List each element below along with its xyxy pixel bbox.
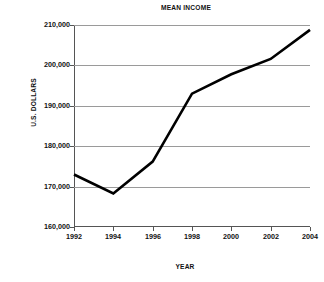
- y-axis-line: [74, 25, 75, 227]
- x-tick-label: 1994: [95, 232, 131, 241]
- x-tick-mark: [153, 227, 154, 231]
- gridline: [74, 146, 310, 147]
- y-tick-label: 160,000: [29, 222, 70, 231]
- gridline: [74, 65, 310, 66]
- x-tick-label: 2002: [253, 232, 289, 241]
- y-axis-title: U.S. DOLLARS: [29, 72, 38, 134]
- gridline: [74, 106, 310, 107]
- x-tick-mark: [271, 227, 272, 231]
- y-tick-mark: [70, 187, 74, 188]
- x-tick-mark: [231, 227, 232, 231]
- y-tick-mark: [70, 65, 74, 66]
- x-tick-label: 1996: [135, 232, 171, 241]
- mean-income-line-chart: MEAN INCOME 160,000170,000180,000190,000…: [0, 0, 324, 282]
- gridline: [74, 187, 310, 188]
- y-tick-mark: [70, 146, 74, 147]
- y-tick-label: 180,000: [29, 141, 70, 150]
- chart-title: MEAN INCOME: [153, 3, 220, 12]
- x-tick-mark: [192, 227, 193, 231]
- y-tick-mark: [70, 106, 74, 107]
- x-tick-mark: [113, 227, 114, 231]
- y-tick-label: 210,000: [29, 20, 70, 29]
- x-tick-label: 2000: [213, 232, 249, 241]
- y-tick-label: 170,000: [29, 182, 70, 191]
- x-tick-mark: [74, 227, 75, 231]
- gridline: [74, 25, 310, 26]
- y-tick-label: 200,000: [29, 60, 70, 69]
- x-tick-mark: [310, 227, 311, 231]
- x-tick-label: 1998: [174, 232, 210, 241]
- plot-area: [74, 25, 310, 227]
- x-tick-label: 1992: [56, 232, 92, 241]
- y-tick-mark: [70, 25, 74, 26]
- x-axis-title: YEAR: [156, 262, 214, 271]
- x-tick-label: 2004: [292, 232, 324, 241]
